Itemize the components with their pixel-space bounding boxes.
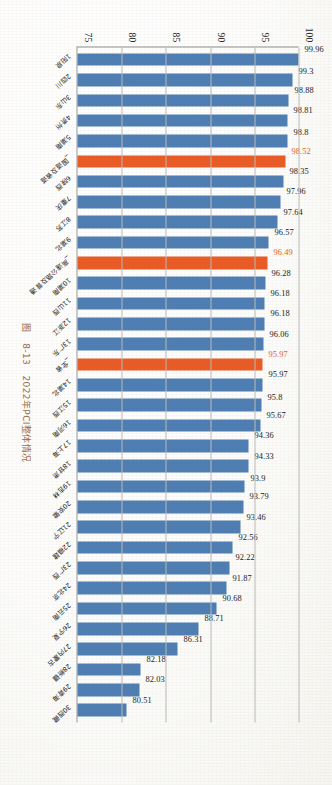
bar-slot: 90.6825云南	[77, 598, 298, 618]
grid-line	[298, 47, 299, 722]
bar: 96.28	[77, 276, 265, 289]
category-label: 21辽宁	[50, 519, 73, 541]
scanned-page: 99.961阳泉99.32四川98.883山东98.814贵州98.85湖南98…	[0, 0, 332, 785]
bar-value-label: 96.18	[270, 288, 289, 297]
bar: 95.67	[77, 419, 260, 432]
bar: 95.97	[77, 358, 262, 371]
bar-value-label: 92.22	[235, 553, 254, 562]
bar: 92.22	[77, 561, 229, 574]
bar: 97.96	[77, 195, 280, 208]
category-label: 5湖南	[53, 133, 73, 153]
bar: 94.36	[77, 439, 248, 452]
category-label: 4贵州	[53, 113, 73, 133]
category-label: 1阳泉	[53, 52, 73, 72]
bar-value-label: 98.52	[291, 146, 310, 155]
bar-slot: 99.32四川	[77, 69, 298, 89]
grid-line	[210, 47, 211, 722]
bar-value-label: 99.96	[304, 44, 323, 53]
category-label: 18甘肃	[50, 458, 73, 480]
category-label: 14湖北	[50, 377, 73, 399]
category-label: 19吉林	[50, 479, 73, 501]
bar-slot: 80.5130西藏	[77, 700, 298, 720]
bar-slot: 95.9714湖北	[77, 374, 298, 394]
bar-value-label: 97.96	[286, 187, 305, 196]
bar: 93.9	[77, 480, 244, 493]
category-label: 16河南	[50, 418, 73, 440]
bar: 99.96	[77, 53, 298, 66]
category-label: 3山东	[53, 92, 73, 112]
bar: 91.87	[77, 581, 226, 594]
bar-value-label: 96.28	[271, 268, 290, 277]
bar-value-label: 95.97	[268, 349, 287, 358]
figure-bar-chart: 99.961阳泉99.32四川98.883山东98.814贵州98.85湖南98…	[0, 0, 332, 785]
bar: 96.06	[77, 337, 263, 350]
category-label: 12浙江	[50, 316, 73, 338]
bar: 86.31	[77, 642, 177, 655]
bar-slot: 98.883山东	[77, 90, 298, 110]
bar: 80.51	[77, 703, 126, 716]
bar-series: 99.961阳泉99.32四川98.883山东98.814贵州98.85湖南98…	[77, 47, 298, 722]
bar-value-label: 80.51	[132, 695, 151, 704]
bar-slot: 82.1828新疆	[77, 659, 298, 679]
category-label: 30西藏	[50, 702, 73, 724]
bar: 82.18	[77, 663, 140, 676]
bar-value-label: 91.87	[232, 573, 251, 582]
bar-value-label: 82.18	[146, 654, 165, 663]
bar-value-label: 96.06	[269, 329, 288, 338]
bar: 93.46	[77, 520, 240, 533]
category-label: 17上海	[50, 438, 73, 460]
y-axis-tick-label: 85	[170, 32, 180, 42]
bar-slot: 95.97_全省	[77, 354, 298, 374]
bar-slot: 98.52_国道及省道	[77, 151, 298, 171]
bar-value-label: 96.49	[273, 248, 292, 257]
bar: 95.97	[77, 378, 262, 391]
bar-slot: 95.815江西	[77, 395, 298, 415]
bar-slot: 96.579湖北	[77, 232, 298, 252]
bar-value-label: 90.68	[222, 593, 241, 602]
bar: 94.33	[77, 459, 248, 472]
bar-slot: 91.8724北京	[77, 578, 298, 598]
category-label: 25云南	[50, 601, 73, 623]
bar-slot: 96.49_高速公路及普通	[77, 252, 298, 272]
bar-slot: 98.85湖南	[77, 130, 298, 150]
bar: 96.49	[77, 256, 267, 269]
grid-line	[254, 47, 255, 722]
bar-value-label: 95.97	[268, 370, 287, 379]
category-label: 11山西	[50, 296, 73, 318]
bar-slot: 97.648江苏	[77, 212, 298, 232]
bar: 90.68	[77, 602, 216, 615]
category-label: 24北京	[50, 580, 73, 602]
bar-slot: 96.1812浙江	[77, 313, 298, 333]
bar-value-label: 95.67	[266, 410, 285, 419]
category-label: 7重庆	[53, 194, 73, 214]
bar-value-label: 98.8	[293, 128, 308, 137]
grid-line	[121, 47, 122, 722]
category-label: 9湖北	[53, 235, 73, 255]
y-axis-tick-label: 80	[126, 32, 136, 42]
plot-area: 99.961阳泉99.32四川98.883山东98.814贵州98.85湖南98…	[76, 46, 298, 722]
bar-slot: 86.3127内蒙古	[77, 639, 298, 659]
category-label: 15江西	[50, 397, 73, 419]
category-label: 20安徽	[50, 499, 73, 521]
bar-value-label: 96.18	[270, 309, 289, 318]
bar-value-label: 93.79	[249, 492, 268, 501]
bar: 88.71	[77, 622, 198, 635]
bar-slot: 93.4621辽宁	[77, 517, 298, 537]
y-axis-tick-label: 95	[259, 32, 269, 42]
bar-slot: 98.814贵州	[77, 110, 298, 130]
bar: 98.88	[77, 94, 288, 107]
bar: 92.56	[77, 541, 232, 554]
bar-value-label: 98.88	[294, 85, 313, 94]
bar-slot: 94.3318甘肃	[77, 456, 298, 476]
caption-number: 8-13	[20, 343, 30, 365]
bar-value-label: 88.71	[204, 614, 223, 623]
bar-value-label: 98.81	[293, 105, 312, 114]
bar-slot: 92.2223广西	[77, 557, 298, 577]
category-label: 29青海	[50, 682, 73, 704]
y-axis-tick-label: 90	[215, 32, 225, 42]
bar: 95.8	[77, 398, 261, 411]
category-label: 13广东	[50, 336, 73, 358]
bar-value-label: 86.31	[183, 634, 202, 643]
bar-value-label: 96.57	[274, 227, 293, 236]
y-axis-tick-label: 100	[303, 27, 313, 42]
